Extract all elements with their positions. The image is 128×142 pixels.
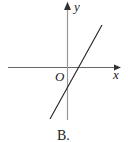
origin-label: O xyxy=(55,70,64,83)
option-caption: B. xyxy=(57,129,70,142)
y-axis-label: y xyxy=(74,0,80,13)
x-axis-label: x xyxy=(113,68,119,81)
